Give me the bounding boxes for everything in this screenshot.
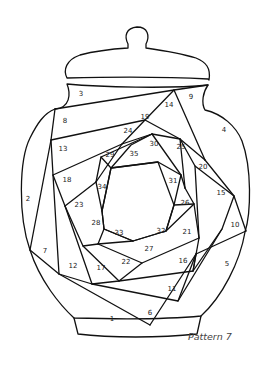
section-label-22: 22 [122,258,131,266]
section-label-14: 14 [165,101,174,109]
section-label-19: 19 [141,113,150,121]
section-label-24: 24 [124,127,133,135]
section-label-11: 11 [168,285,177,293]
pattern-caption: Pattern 7 [188,331,232,342]
section-label-10: 10 [231,221,240,229]
section-label-18: 18 [63,176,72,184]
section-label-23: 23 [75,201,84,209]
section-label-1: 1 [110,315,114,323]
section-label-25: 25 [177,143,186,151]
section-label-7: 7 [43,247,47,255]
section-label-21: 21 [183,228,192,236]
section-label-29: 29 [106,151,115,159]
section-label-8: 8 [63,117,67,125]
section-label-5: 5 [225,260,229,268]
section-number-labels: 1234567891011121314151617181920212223242… [26,90,240,323]
section-label-9: 9 [189,93,193,101]
section-label-13: 13 [59,145,68,153]
section-label-6: 6 [148,309,153,317]
section-label-31: 31 [169,177,178,185]
section-label-35: 35 [130,150,139,158]
section-label-33: 33 [115,229,124,237]
section-label-2: 2 [26,195,30,203]
section-label-4: 4 [222,126,227,134]
section-label-28: 28 [92,219,101,227]
jar-lid [65,27,209,80]
section-label-12: 12 [69,262,78,270]
section-label-17: 17 [97,264,106,272]
section-label-15: 15 [217,189,226,197]
section-label-20: 20 [199,163,208,171]
section-label-27: 27 [145,245,154,253]
section-label-3: 3 [79,90,83,98]
section-label-16: 16 [179,257,188,265]
section-label-26: 26 [181,199,190,207]
iris-folding-pattern-diagram: 1234567891011121314151617181920212223242… [0,0,274,365]
section-label-32: 32 [157,227,166,235]
section-label-30: 30 [150,140,159,148]
section-label-34: 34 [98,183,107,191]
